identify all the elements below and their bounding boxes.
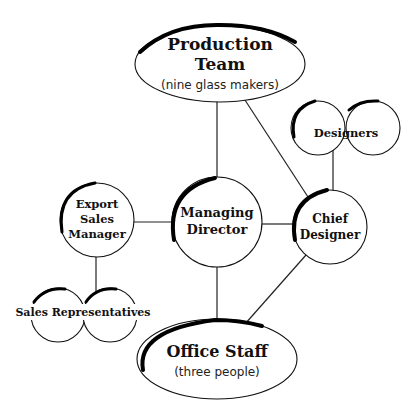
node-sales-representatives: Sales Representatives (10, 288, 160, 342)
managing-director-title-2: Director (187, 222, 248, 237)
export-sales-manager-title-2: Sales (80, 212, 114, 226)
export-sales-manager-title-3: Manager (68, 227, 126, 241)
production-team-title-2: Team (195, 54, 246, 74)
production-team-subtitle: (nine glass makers) (161, 78, 279, 92)
org-diagram: Production Team (nine glass makers) Desi… (0, 0, 413, 408)
edge-chief-office (245, 255, 306, 324)
node-managing-director: Managing Director (172, 177, 262, 267)
production-team-title-1: Production (167, 34, 273, 54)
designers-label: Designers (314, 126, 378, 140)
chief-designer-title-1: Chief (312, 212, 348, 226)
office-staff-title: Office Staff (166, 342, 268, 361)
node-office-staff: Office Staff (three people) (137, 319, 297, 399)
node-designers: Designers (291, 101, 400, 155)
managing-director-title-1: Managing (180, 205, 253, 220)
chief-designer-title-2: Designer (300, 228, 361, 242)
sales-reps-label: Sales Representatives (15, 306, 150, 319)
node-chief-designer: Chief Designer (293, 190, 367, 264)
node-production-team: Production Team (nine glass makers) (135, 25, 305, 102)
office-staff-subtitle: (three people) (174, 365, 260, 379)
export-sales-manager-title-1: Export (76, 197, 119, 211)
node-export-sales-manager: Export Sales Manager (60, 183, 134, 257)
